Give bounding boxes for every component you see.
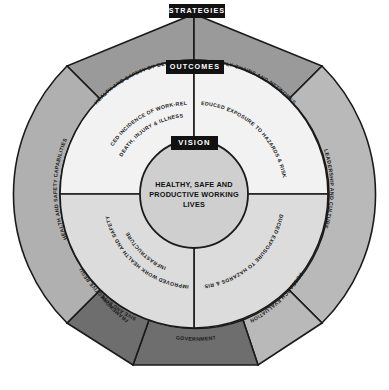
vision-statement-line1: HEALTHY, SAFE AND [155, 180, 233, 189]
vision-statement-line2: PRODUCTIVE WORKING [149, 190, 239, 199]
level-tag-strategies[interactable]: STRATEGIES [169, 4, 225, 18]
diagram-canvas: HEALTH AND SAFETY BY DESIGN SUPPLY CHAIN… [0, 0, 389, 390]
vision-statement-line3: LIVES [183, 200, 205, 209]
framework-diagram-svg: HEALTH AND SAFETY BY DESIGN SUPPLY CHAIN… [0, 0, 389, 390]
level-tag-outcomes[interactable]: OUTCOMES [166, 60, 224, 74]
level-tag-vision[interactable]: VISION [171, 136, 218, 150]
